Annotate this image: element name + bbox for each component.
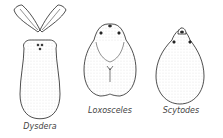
dysdera-illustration (14, 5, 66, 119)
label-dysdera: Dysdera (23, 122, 56, 131)
label-loxosceles: Loxosceles (88, 106, 132, 115)
scytodes-illustration (156, 28, 204, 104)
spider-carapace-diagram (0, 0, 223, 138)
label-scytodes: Scytodes (163, 106, 199, 115)
loxosceles-illustration (84, 24, 136, 96)
